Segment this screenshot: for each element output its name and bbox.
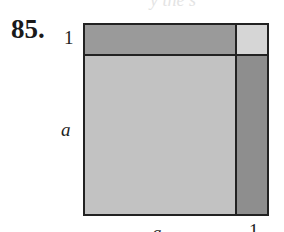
label-main-width: a xyxy=(152,222,162,232)
square-diagram xyxy=(83,23,269,216)
problem-number: 85. xyxy=(11,14,45,45)
main-square-region xyxy=(85,56,237,214)
label-top-height: 1 xyxy=(64,27,74,49)
label-main-height: a xyxy=(61,119,71,141)
side-strip-region xyxy=(237,56,267,214)
corner-region xyxy=(237,25,267,56)
label-side-width: 1 xyxy=(249,220,259,232)
cropped-header-text: y the s xyxy=(150,0,196,11)
top-strip-region xyxy=(85,25,237,56)
